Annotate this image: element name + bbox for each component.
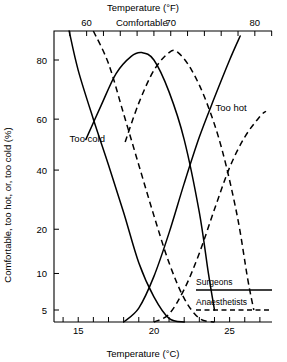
y-axis-ticks [54, 60, 59, 310]
y-axis-tick-labels: 51020406080 [36, 55, 47, 316]
bottom-axis-title: Temperature (°C) [107, 348, 180, 359]
y-tick-label: 10 [36, 268, 47, 279]
legend-label-anaesthetists: Anaesthetists [196, 297, 247, 307]
bottom-tick-label: 15 [73, 325, 84, 336]
chart-legend: Surgeons Anaesthetists [196, 277, 272, 310]
curve-0 [69, 31, 184, 322]
top-axis-title: Temperature (°F) [107, 2, 179, 13]
curve-2 [86, 52, 215, 310]
top-axis-tick-labels: 607080 [81, 17, 260, 28]
bottom-tick-label: 25 [224, 325, 235, 336]
y-axis-title: Comfortable, too hot, or, too cold (%) [2, 127, 13, 282]
top-axis-ticks [70, 31, 272, 36]
top-tick-label: 80 [250, 17, 261, 28]
annotation-comfortable: Comfortable [116, 17, 168, 28]
annotation-too-cold: Too cold [70, 133, 105, 144]
chart-figure: 607080 152025 51020406080 ComfortableToo… [0, 0, 287, 362]
plot-frame [54, 31, 272, 322]
bottom-axis-tick-labels: 152025 [73, 325, 235, 336]
annotation-too-hot: Too hot [216, 102, 248, 113]
data-curves [69, 31, 266, 322]
bottom-tick-label: 20 [149, 325, 160, 336]
y-tick-label: 20 [36, 224, 47, 235]
y-tick-label: 40 [36, 165, 47, 176]
bottom-axis-ticks [63, 317, 260, 322]
curve-3 [125, 50, 254, 310]
legend-label-surgeons: Surgeons [196, 277, 232, 287]
y-tick-label: 5 [42, 305, 47, 316]
temperature-comfort-chart: 607080 152025 51020406080 ComfortableToo… [0, 0, 287, 362]
y-tick-label: 80 [36, 55, 47, 66]
axis-frame [54, 31, 272, 322]
top-tick-label: 60 [81, 17, 92, 28]
y-tick-label: 60 [36, 114, 47, 125]
